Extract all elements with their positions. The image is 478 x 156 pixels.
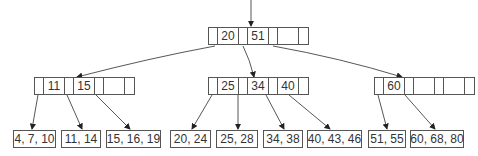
leaf-node: 15, 16, 19: [106, 130, 161, 148]
pointer-cell: [269, 78, 278, 94]
pointer-cell: [95, 78, 104, 94]
key-cell: [278, 28, 299, 44]
key-cell: 25: [218, 78, 239, 94]
leaf-node: 60, 68, 80: [410, 130, 464, 148]
pointer-cell: [65, 78, 74, 94]
key-cell: 11: [44, 78, 65, 94]
internal-node-left: 11 15: [34, 77, 135, 95]
pointer-cell: [239, 28, 248, 44]
pointer-cell: [125, 78, 134, 94]
leaf-node: 34, 38: [263, 130, 303, 148]
key-cell: [414, 78, 435, 94]
key-cell: [104, 78, 125, 94]
pointer-cell: [375, 78, 384, 94]
key-cell: 15: [74, 78, 95, 94]
pointer-cell: [299, 78, 308, 94]
pointer-cell: [299, 28, 308, 44]
key-cell: 40: [278, 78, 299, 94]
key-cell: 51: [248, 28, 269, 44]
leaf-node: 40, 43, 46: [307, 130, 362, 148]
root-node: 20 51: [208, 27, 309, 45]
leaf-node: 4, 7, 10: [13, 130, 56, 148]
pointer-cell: [209, 28, 218, 44]
key-cell: 34: [248, 78, 269, 94]
key-cell: [444, 78, 465, 94]
pointer-cell: [35, 78, 44, 94]
internal-node-middle: 25 34 40: [208, 77, 309, 95]
key-cell: 20: [218, 28, 239, 44]
leaf-node: 25, 28: [216, 130, 258, 148]
leaf-node: 51, 55: [368, 130, 406, 148]
pointer-cell: [405, 78, 414, 94]
leaf-node: 11, 14: [61, 130, 101, 148]
pointer-cell: [239, 78, 248, 94]
key-cell: 60: [384, 78, 405, 94]
pointer-cell: [465, 78, 474, 94]
pointer-cell: [435, 78, 444, 94]
pointer-cell: [269, 28, 278, 44]
internal-node-right: 60: [374, 77, 475, 95]
pointer-cell: [209, 78, 218, 94]
leaf-node: 20, 24: [170, 130, 211, 148]
